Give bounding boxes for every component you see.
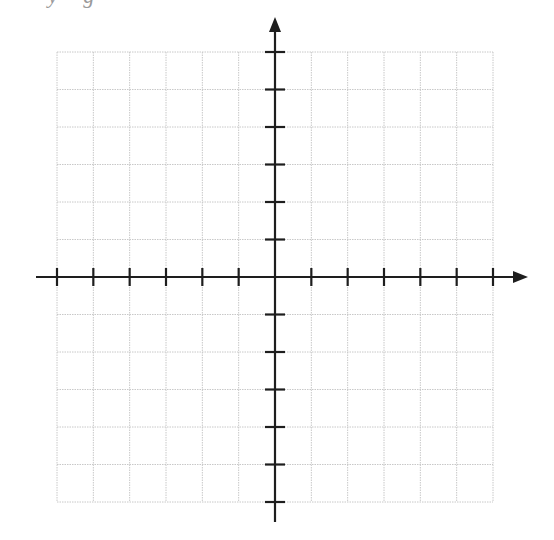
axes bbox=[36, 17, 528, 522]
x-axis-arrow-icon bbox=[513, 271, 528, 283]
y-axis-arrow-icon bbox=[269, 17, 281, 32]
coordinate-plane bbox=[0, 0, 554, 540]
